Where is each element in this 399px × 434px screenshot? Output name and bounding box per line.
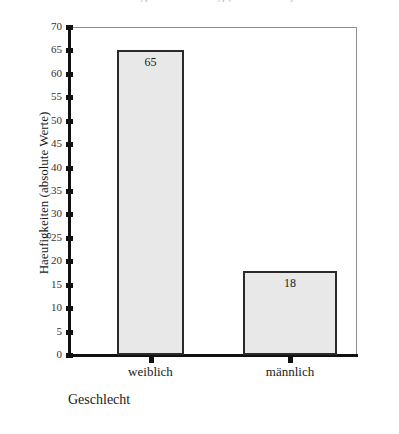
- y-axis-tick: [66, 25, 73, 30]
- x-axis-title: Geschlecht: [68, 392, 130, 408]
- y-axis-tick: [66, 95, 73, 100]
- y-axis-tick: [66, 306, 73, 311]
- x-axis-tick: [149, 356, 154, 363]
- y-axis-tick-label: 0: [36, 349, 62, 360]
- bar-value-label: 65: [119, 56, 182, 69]
- bar-chart-figure: Haeufigkeitsverteilung (Geschlecht) 0510…: [0, 0, 399, 434]
- bar-value-label: 18: [245, 277, 335, 290]
- x-axis-tick: [288, 356, 293, 363]
- y-axis-tick: [66, 259, 73, 264]
- bar-weiblich: 65: [117, 50, 184, 355]
- y-axis-tick: [66, 353, 73, 358]
- bar-männlich: 18: [243, 271, 337, 355]
- y-axis-tick: [66, 166, 73, 171]
- y-axis-tick: [66, 48, 73, 53]
- y-axis-tick: [66, 119, 73, 124]
- y-axis-tick: [66, 330, 73, 335]
- y-axis-tick-label: 70: [36, 21, 62, 32]
- y-axis-tick: [66, 142, 73, 147]
- y-axis-tick: [66, 283, 73, 288]
- y-axis-tick: [66, 236, 73, 241]
- y-axis-tick: [66, 189, 73, 194]
- y-axis-tick: [66, 212, 73, 217]
- y-axis-tick: [66, 72, 73, 77]
- y-axis-title: Haeufigkeiten (absolute Werte): [37, 43, 51, 343]
- x-axis-category-label: weiblich: [91, 364, 211, 379]
- cropped-chart-title: Haeufigkeitsverteilung (Geschlecht): [0, 0, 399, 2]
- x-axis-category-label: männlich: [230, 364, 350, 379]
